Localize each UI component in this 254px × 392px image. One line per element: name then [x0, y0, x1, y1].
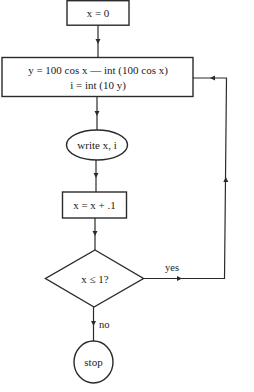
node-init: x = 0: [67, 1, 129, 26]
arrow-down-icon: [93, 231, 98, 236]
init-label: x = 0: [87, 7, 110, 19]
arrow-right-icon: [177, 276, 182, 281]
node-compute: y = 100 cos x — int (100 cos x) i = int …: [2, 58, 193, 97]
arrow-down-icon: [95, 111, 100, 116]
increment-label: x = x + .1: [73, 199, 116, 211]
edge-increment-to-decision: [93, 218, 98, 250]
compute-label-line2: i = int (10 y): [70, 79, 126, 92]
node-end: stop: [74, 341, 113, 383]
output-label: write x, i: [77, 139, 116, 151]
no-label: no: [99, 319, 110, 330]
arrow-down-icon: [96, 39, 101, 44]
edge-compute-to-output: [95, 97, 100, 131]
edge-output-to-increment: [94, 160, 99, 192]
flowchart: x = 0 y = 100 cos x — int (100 cos x) i …: [0, 0, 254, 392]
edge-decision-no: no: [91, 307, 110, 341]
stop-label: stop: [84, 356, 103, 368]
arrow-left-icon: [210, 76, 215, 81]
loop-line: [144, 78, 227, 279]
decision-label: x ≤ 1?: [81, 273, 109, 285]
node-decision: x ≤ 1?: [46, 250, 144, 307]
edge-init-to-compute: [96, 25, 101, 57]
compute-label-line1: y = 100 cos x — int (100 cos x): [28, 64, 168, 77]
node-increment: x = x + .1: [63, 192, 127, 218]
edge-decision-yes-loop: yes: [144, 76, 229, 282]
yes-label: yes: [165, 262, 179, 273]
node-output: write x, i: [67, 130, 128, 160]
arrow-up-icon: [223, 177, 228, 182]
arrow-down-icon: [91, 321, 96, 326]
arrow-down-icon: [94, 173, 99, 178]
